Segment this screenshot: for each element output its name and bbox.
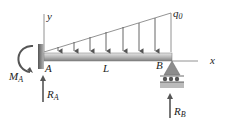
- beam: [44, 53, 172, 61]
- beam-diagram: [0, 0, 229, 129]
- reaction-b-label: RB: [174, 106, 186, 119]
- fixed-wall: [38, 44, 44, 69]
- moment-arrow: [18, 46, 33, 72]
- load-intensity-label: q0: [173, 8, 183, 21]
- load-arrows: [58, 18, 155, 51]
- reaction-a-label: RA: [47, 89, 59, 102]
- length-label: L: [103, 63, 109, 74]
- point-a-label: A: [45, 63, 52, 74]
- roller-support: [160, 61, 184, 88]
- distributed-load: [44, 13, 171, 52]
- x-axis-label: x: [210, 55, 215, 66]
- y-axis-label: y: [47, 11, 52, 22]
- point-b-label: B: [156, 60, 163, 71]
- moment-a-label: MA: [9, 71, 23, 84]
